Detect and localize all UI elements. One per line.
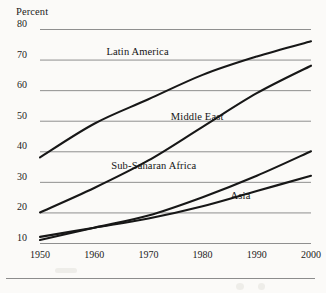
y-tick-40: 40	[17, 140, 27, 151]
x-tick-1960: 1960	[72, 249, 116, 260]
gridlines	[40, 30, 311, 244]
scan-artifact	[258, 283, 265, 290]
y-tick-50: 50	[17, 110, 27, 121]
series-curves	[40, 41, 311, 240]
x-tick-1950: 1950	[18, 249, 62, 260]
series-label-latin-america: Latin America	[106, 46, 168, 57]
y-tick-30: 30	[17, 171, 27, 182]
y-tick-80: 80	[17, 18, 27, 29]
caption-divider	[6, 278, 315, 279]
y-tick-70: 70	[17, 49, 27, 60]
x-tick-1980: 1980	[181, 249, 225, 260]
series-curve-latin-america	[40, 41, 311, 157]
scan-artifact	[236, 283, 244, 290]
y-tick-10: 10	[17, 232, 27, 243]
x-tick-2000: 2000	[289, 249, 326, 260]
series-label-middle-east: Middle East	[171, 111, 224, 122]
x-tick-1970: 1970	[126, 249, 170, 260]
y-tick-20: 20	[17, 201, 27, 212]
y-tick-60: 60	[17, 79, 27, 90]
series-label-asia: Asia	[231, 190, 251, 201]
x-tick-1990: 1990	[235, 249, 279, 260]
series-label-sub-saharan-africa: Sub-Saharan Africa	[111, 160, 196, 171]
scan-artifact	[55, 268, 77, 273]
